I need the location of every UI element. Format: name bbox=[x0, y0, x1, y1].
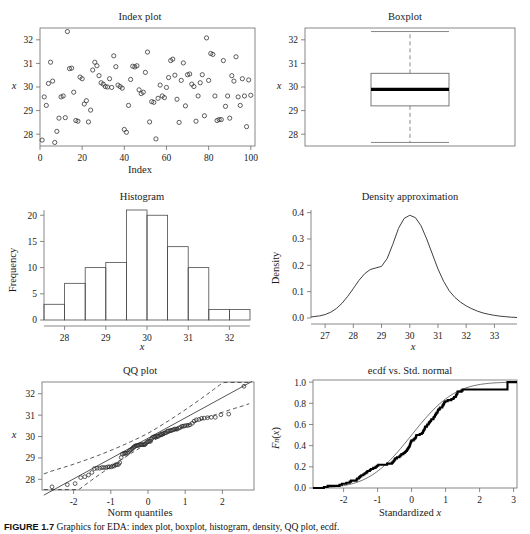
panel-index-plot: Index plot 2829303132020406080100 Index … bbox=[0, 0, 265, 180]
boxplot-shapes bbox=[371, 32, 449, 143]
svg-text:32: 32 bbox=[26, 389, 36, 399]
density-ylabel: Density bbox=[270, 251, 281, 284]
svg-text:0: 0 bbox=[38, 153, 43, 163]
figure-container: Index plot 2829303132020406080100 Index … bbox=[0, 0, 530, 534]
svg-text:0.2: 0.2 bbox=[294, 462, 306, 472]
svg-text:1.0: 1.0 bbox=[294, 378, 306, 388]
panel-density: Density approximation 0.00.10.20.30.4272… bbox=[265, 180, 530, 358]
qq-plot-ylabel: x bbox=[11, 429, 17, 440]
svg-text:29: 29 bbox=[24, 106, 34, 116]
ecdf-xlabel: Standardized x bbox=[379, 507, 441, 518]
svg-text:30: 30 bbox=[405, 331, 415, 341]
histogram-bars bbox=[44, 210, 250, 320]
svg-text:0.4: 0.4 bbox=[292, 208, 304, 218]
svg-text:32: 32 bbox=[461, 331, 471, 341]
ecdf-step-curve bbox=[313, 382, 517, 488]
svg-text:0: 0 bbox=[409, 495, 414, 505]
ecdf-svg: ecdf vs. Std. normal 0.00.20.40.60.81.0-… bbox=[265, 358, 530, 521]
ecdf-title: ecdf vs. Std. normal bbox=[368, 365, 452, 376]
ecdf-normal-curve bbox=[313, 382, 515, 488]
svg-text:1: 1 bbox=[443, 495, 448, 505]
figure-caption: FIGURE 1.7 Graphics for EDA: index plot,… bbox=[4, 521, 526, 533]
svg-text:0.0: 0.0 bbox=[294, 483, 306, 493]
density-curve bbox=[311, 215, 517, 317]
density-svg: Density approximation 0.00.10.20.30.4272… bbox=[265, 180, 530, 358]
svg-text:0.2: 0.2 bbox=[292, 261, 304, 271]
svg-text:2: 2 bbox=[477, 495, 482, 505]
index-plot-svg: Index plot 2829303132020406080100 Index … bbox=[0, 0, 265, 180]
svg-text:28: 28 bbox=[60, 333, 70, 343]
svg-text:28: 28 bbox=[26, 475, 36, 485]
svg-text:-2: -2 bbox=[70, 497, 78, 507]
svg-text:29: 29 bbox=[26, 453, 36, 463]
svg-text:0.8: 0.8 bbox=[294, 399, 306, 409]
qq-confidence-bands bbox=[44, 382, 249, 489]
svg-text:15: 15 bbox=[28, 237, 38, 247]
svg-text:10: 10 bbox=[28, 263, 38, 273]
svg-text:0.1: 0.1 bbox=[292, 287, 304, 297]
svg-text:0: 0 bbox=[146, 497, 151, 507]
svg-text:31: 31 bbox=[24, 59, 34, 69]
histogram-ylabel: Frequency bbox=[7, 247, 18, 292]
svg-text:0.0: 0.0 bbox=[292, 313, 304, 323]
histogram-svg: Histogram 051015202829303132 x Frequency bbox=[0, 180, 265, 358]
svg-text:29: 29 bbox=[377, 331, 387, 341]
figure-caption-text: Graphics for EDA: index plot, boxplot, h… bbox=[56, 521, 339, 532]
svg-text:31: 31 bbox=[433, 331, 443, 341]
histogram-xlabel: x bbox=[139, 341, 145, 352]
svg-text:5: 5 bbox=[32, 289, 37, 299]
svg-text:3: 3 bbox=[511, 495, 516, 505]
index-plot-title: Index plot bbox=[119, 11, 162, 22]
svg-text:-2: -2 bbox=[340, 495, 348, 505]
histogram-title: Histogram bbox=[120, 191, 164, 202]
svg-text:60: 60 bbox=[162, 153, 172, 163]
svg-text:30: 30 bbox=[289, 82, 299, 92]
boxplot-ylabel: x bbox=[276, 80, 282, 91]
svg-text:27: 27 bbox=[320, 331, 330, 341]
qq-reference-line bbox=[44, 381, 252, 495]
panel-histogram: Histogram 051015202829303132 x Frequency bbox=[0, 180, 265, 358]
panel-ecdf: ecdf vs. Std. normal 0.00.20.40.60.81.0-… bbox=[265, 358, 530, 521]
qq-plot-xlabel: Norm quantiles bbox=[107, 507, 172, 518]
panel-qq-plot: QQ plot 2829303132-2-1012 Norm quantiles… bbox=[0, 358, 265, 521]
svg-text:2: 2 bbox=[220, 497, 225, 507]
svg-text:28: 28 bbox=[24, 130, 34, 140]
ecdf-ylabel: Fn(x) bbox=[270, 426, 282, 450]
index-plot-xlabel: Index bbox=[128, 164, 153, 175]
svg-text:100: 100 bbox=[244, 153, 259, 163]
figure-caption-label: FIGURE 1.7 bbox=[4, 522, 54, 532]
svg-text:28: 28 bbox=[349, 331, 359, 341]
density-xlabel: x bbox=[410, 341, 416, 352]
svg-text:31: 31 bbox=[183, 333, 193, 343]
svg-text:40: 40 bbox=[120, 153, 130, 163]
qq-plot-svg: QQ plot 2829303132-2-1012 Norm quantiles… bbox=[0, 358, 265, 521]
svg-text:31: 31 bbox=[26, 411, 36, 421]
svg-text:33: 33 bbox=[490, 331, 500, 341]
svg-text:29: 29 bbox=[289, 106, 299, 116]
svg-text:31: 31 bbox=[289, 59, 299, 69]
svg-text:32: 32 bbox=[225, 333, 235, 343]
svg-text:-1: -1 bbox=[374, 495, 382, 505]
panel-boxplot: Boxplot 2829303132 x bbox=[265, 0, 530, 180]
index-plot-ylabel: x bbox=[11, 80, 17, 91]
svg-text:0.3: 0.3 bbox=[292, 234, 304, 244]
svg-text:20: 20 bbox=[28, 211, 38, 221]
boxplot-title: Boxplot bbox=[388, 11, 422, 22]
qq-points bbox=[50, 384, 246, 488]
svg-text:29: 29 bbox=[101, 333, 111, 343]
svg-text:0: 0 bbox=[32, 315, 37, 325]
svg-text:0.6: 0.6 bbox=[294, 420, 306, 430]
svg-text:30: 30 bbox=[24, 82, 34, 92]
svg-text:32: 32 bbox=[289, 35, 299, 45]
svg-text:32: 32 bbox=[24, 35, 34, 45]
svg-text:20: 20 bbox=[77, 153, 87, 163]
density-title: Density approximation bbox=[362, 191, 459, 202]
svg-text:30: 30 bbox=[26, 432, 36, 442]
svg-text:28: 28 bbox=[289, 130, 299, 140]
svg-text:1: 1 bbox=[183, 497, 188, 507]
boxplot-svg: Boxplot 2829303132 x bbox=[265, 0, 530, 180]
index-plot-points bbox=[40, 29, 253, 144]
svg-text:-1: -1 bbox=[107, 497, 115, 507]
svg-text:0.4: 0.4 bbox=[294, 441, 306, 451]
svg-text:80: 80 bbox=[204, 153, 214, 163]
